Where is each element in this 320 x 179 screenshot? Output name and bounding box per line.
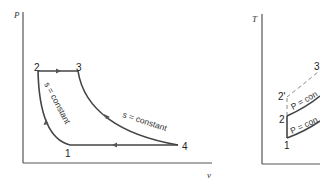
- cycle-diagrams: P v 2 3 1 4 s = constant s = constant T: [0, 0, 320, 179]
- point-label-3: 3: [76, 62, 82, 73]
- point-label-2: 2: [34, 62, 40, 73]
- point-label-1: 1: [65, 148, 71, 159]
- annotation-p-constant-lower: P = con: [289, 114, 320, 135]
- arrow-icon: [56, 69, 61, 74]
- t-axis-label: T: [252, 14, 258, 24]
- point-label-3: 3: [314, 61, 320, 72]
- pv-diagram: P v 2 3 1 4 s = constant s = constant: [13, 10, 212, 179]
- annotation-s-constant-left: s = constant: [42, 80, 73, 126]
- point-label-2: 2: [279, 114, 285, 125]
- point-label-1: 1: [284, 140, 290, 151]
- v-axis-label: v: [207, 170, 211, 179]
- arrow-icon: [44, 119, 49, 125]
- ts-diagram: T 2' 2 1 3 P = con P = con: [252, 14, 320, 164]
- process-3-4: [78, 71, 178, 145]
- p-axis-label: P: [13, 10, 20, 20]
- point-label-2prime: 2': [278, 91, 286, 102]
- point-label-4: 4: [182, 141, 188, 152]
- arrow-icon: [112, 143, 117, 148]
